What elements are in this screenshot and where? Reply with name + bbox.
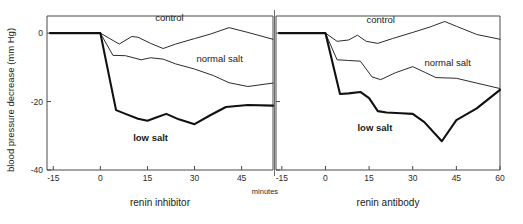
panel-title-renin-inhibitor: renin inhibitor bbox=[130, 197, 191, 208]
panels-group: 0-20-40-150153045controlnormal saltlow s… bbox=[31, 10, 505, 208]
series-line-low-salt bbox=[50, 33, 273, 124]
x-tick-label: 30 bbox=[190, 173, 200, 183]
y-axis-title: blood pressure decrease (mm Hg) bbox=[5, 28, 16, 172]
x-tick-label: -15 bbox=[276, 173, 289, 183]
x-tick-label: -15 bbox=[47, 173, 60, 183]
series-label-low-salt: low salt bbox=[357, 122, 393, 133]
panel-frame bbox=[276, 16, 500, 170]
x-tick-label: 45 bbox=[452, 173, 462, 183]
panel-frame bbox=[47, 16, 273, 170]
x-axis-units-label: minutes bbox=[252, 187, 279, 196]
series-line-control bbox=[50, 28, 273, 49]
panel-renin-antibody: -15015304560controlnormal saltlow saltre… bbox=[276, 14, 505, 208]
panel-renin-inhibitor: 0-20-40-150153045controlnormal saltlow s… bbox=[31, 12, 273, 208]
x-tick-label: 30 bbox=[408, 173, 418, 183]
x-tick-label: 60 bbox=[495, 173, 505, 183]
series-label-normal-salt: normal salt bbox=[196, 53, 243, 64]
y-tick-label: -40 bbox=[31, 165, 44, 175]
x-tick-label: 45 bbox=[237, 173, 247, 183]
y-tick-label: -20 bbox=[31, 97, 44, 107]
x-tick-label: 15 bbox=[143, 173, 153, 183]
series-label-control: control bbox=[155, 12, 184, 23]
panel-title-renin-antibody: renin antibody bbox=[357, 197, 420, 208]
series-label-low-salt: low salt bbox=[133, 132, 169, 143]
figure-container: blood pressure decrease (mm Hg) 0-20-40-… bbox=[0, 0, 523, 224]
x-tick-label: 0 bbox=[98, 173, 103, 183]
series-label-control: control bbox=[366, 14, 395, 25]
x-tick-label: 15 bbox=[364, 173, 374, 183]
y-tick-label: 0 bbox=[38, 28, 43, 38]
chart-canvas: blood pressure decrease (mm Hg) 0-20-40-… bbox=[0, 0, 523, 224]
series-label-normal-salt: normal salt bbox=[424, 57, 471, 68]
x-tick-label: 0 bbox=[323, 173, 328, 183]
